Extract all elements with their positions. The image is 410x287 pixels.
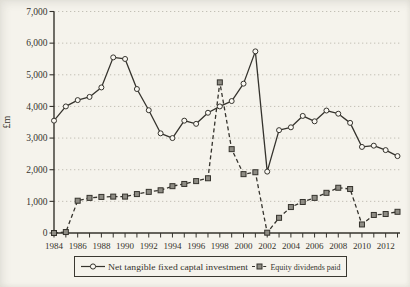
y-tick-label: 6,000 [26, 38, 48, 48]
x-tick-label: 1994 [163, 241, 182, 251]
figure: 01,0002,0003,0004,0005,0006,0007,0001984… [0, 0, 410, 287]
data-point-circle [300, 113, 305, 118]
data-point-square [324, 190, 329, 195]
data-point-circle [383, 148, 388, 153]
axis-ticks: 01,0002,0003,0004,0005,0006,0007,0001984… [26, 7, 397, 251]
data-point-square [371, 212, 376, 217]
line-chart: 01,0002,0003,0004,0005,0006,0007,0001984… [0, 0, 410, 287]
x-tick-label: 1986 [69, 241, 88, 251]
data-point-square [241, 172, 246, 177]
data-point-circle [217, 104, 222, 109]
data-point-circle [170, 136, 175, 141]
data-point-square [52, 231, 57, 236]
data-point-square [182, 181, 187, 186]
data-point-square [395, 209, 400, 214]
data-point-circle [194, 121, 199, 126]
data-point-square [205, 176, 210, 181]
legend-label-net-investment: Net tangible fixed captal investment [108, 262, 249, 272]
data-point-circle [241, 81, 246, 86]
legend-square-marker-icon [257, 264, 262, 269]
data-point-circle [229, 99, 234, 104]
data-point-circle [146, 108, 151, 113]
data-point-circle [324, 108, 329, 113]
data-point-square [288, 205, 293, 210]
x-tick-label: 2002 [258, 241, 276, 251]
data-point-square [265, 230, 270, 235]
data-point-square [134, 192, 139, 197]
data-point-square [312, 195, 317, 200]
data-point-circle [336, 111, 341, 116]
data-point-circle [75, 98, 80, 103]
data-point-circle [111, 55, 116, 60]
data-point-square [383, 212, 388, 217]
data-point-circle [265, 169, 270, 174]
series-line-net-investment [54, 51, 398, 171]
data-point-square [348, 187, 353, 192]
x-tick-label: 2000 [235, 241, 254, 251]
data-point-square [229, 147, 234, 152]
legend: Net tangible fixed captal investment Equ… [75, 257, 347, 277]
data-point-square [146, 189, 151, 194]
y-tick-label: 0 [43, 228, 48, 238]
data-point-circle [395, 154, 400, 159]
data-point-circle [312, 119, 317, 124]
data-point-square [170, 184, 175, 189]
y-tick-label: 1,000 [26, 197, 48, 207]
data-point-circle [359, 144, 364, 149]
x-tick-label: 2010 [353, 241, 372, 251]
data-point-square [63, 230, 68, 235]
legend-circle-marker-icon [90, 264, 95, 269]
y-tick-label: 4,000 [26, 102, 48, 112]
data-point-circle [63, 104, 68, 109]
data-series [52, 49, 401, 236]
data-point-circle [253, 49, 258, 54]
data-point-square [217, 80, 222, 85]
data-point-circle [182, 118, 187, 123]
x-tick-label: 1996 [187, 241, 206, 251]
data-point-circle [134, 87, 139, 92]
x-tick-label: 1984 [45, 241, 64, 251]
data-point-square [75, 198, 80, 203]
x-tick-label: 2008 [329, 241, 348, 251]
data-point-square [158, 188, 163, 193]
data-point-square [111, 194, 116, 199]
data-point-square [300, 199, 305, 204]
data-point-square [123, 194, 128, 199]
data-point-circle [371, 143, 376, 148]
data-point-circle [277, 128, 282, 133]
data-point-square [253, 170, 258, 175]
data-point-circle [158, 131, 163, 136]
y-tick-label: 7,000 [26, 7, 48, 17]
y-axis-title: £m [1, 115, 12, 128]
data-point-square [87, 195, 92, 200]
y-tick-label: 2,000 [26, 165, 48, 175]
data-point-circle [123, 56, 128, 61]
data-point-square [277, 215, 282, 220]
x-tick-label: 1988 [92, 241, 111, 251]
gridlines [54, 12, 400, 202]
y-tick-label: 3,000 [26, 133, 48, 143]
x-tick-label: 2004 [282, 241, 301, 251]
x-tick-label: 2006 [306, 241, 325, 251]
legend-label-equity-dividends: Equity dividends paid [271, 262, 342, 272]
data-point-square [194, 179, 199, 184]
data-point-square [336, 185, 341, 190]
x-tick-label: 1998 [211, 241, 230, 251]
data-point-circle [348, 120, 353, 125]
data-point-circle [288, 125, 293, 130]
data-point-circle [87, 94, 92, 99]
x-tick-label: 2012 [377, 241, 395, 251]
data-point-square [359, 222, 364, 227]
series-line-equity-dividends [54, 82, 398, 233]
data-point-circle [99, 85, 104, 90]
x-tick-label: 1992 [140, 241, 158, 251]
data-point-circle [52, 118, 57, 123]
data-point-circle [205, 110, 210, 115]
data-point-square [99, 194, 104, 199]
y-tick-label: 5,000 [26, 70, 48, 80]
x-tick-label: 1990 [116, 241, 135, 251]
